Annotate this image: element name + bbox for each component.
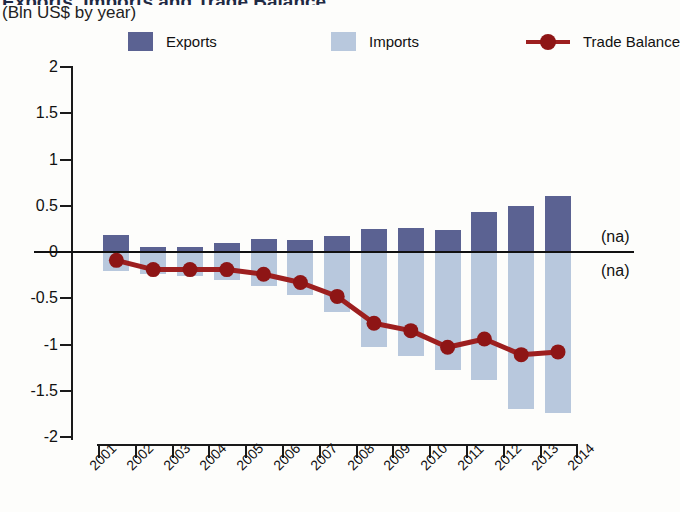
bar-imports (508, 252, 534, 409)
y-tick-label: -0.5 (6, 289, 58, 307)
bar-imports (140, 252, 166, 274)
na-label-bottom: (na) (601, 262, 629, 280)
exports-swatch-icon (128, 32, 153, 51)
y-tick-label: 1 (6, 151, 58, 169)
imports-swatch-icon (331, 32, 356, 51)
bar-exports (398, 228, 424, 252)
bar-exports (471, 212, 497, 252)
bar-exports (435, 230, 461, 252)
bar-exports (508, 206, 534, 252)
bar-imports (324, 252, 350, 312)
y-axis-line (71, 66, 73, 440)
na-label-top: (na) (601, 228, 629, 246)
bar-exports (324, 236, 350, 252)
legend-item-exports: Exports (128, 30, 217, 52)
bar-imports (361, 252, 387, 347)
bar-exports (361, 229, 387, 252)
bar-exports (103, 235, 129, 252)
bar-imports (471, 252, 497, 380)
bar-imports (214, 252, 240, 280)
y-tick-label: -1.5 (6, 382, 58, 400)
bar-imports (545, 252, 571, 413)
bar-imports (177, 252, 203, 276)
bar-imports (251, 252, 277, 286)
legend-label-imports: Imports (369, 33, 419, 50)
legend-label-trade-balance: Trade Balance (583, 33, 680, 50)
bar-imports (287, 252, 313, 295)
legend-item-trade-balance: Trade Balance (526, 30, 680, 52)
y-tick-label: -2 (6, 428, 58, 446)
y-tick-label: 1.5 (6, 104, 58, 122)
y-tick-label: -1 (6, 336, 58, 354)
bar-exports (545, 196, 571, 252)
bar-imports (398, 252, 424, 356)
y-tick-label: 2 (6, 58, 58, 76)
bar-imports (435, 252, 461, 370)
legend-item-imports: Imports (331, 30, 419, 52)
legend-label-exports: Exports (166, 33, 217, 50)
bar-imports (103, 252, 129, 271)
trade-balance-line-icon (526, 32, 570, 51)
y-axis-labels: 21.510.50-0.5-1-1.5-2 (0, 0, 58, 512)
y-tick-label: 0.5 (6, 197, 58, 215)
zero-line (34, 251, 634, 253)
